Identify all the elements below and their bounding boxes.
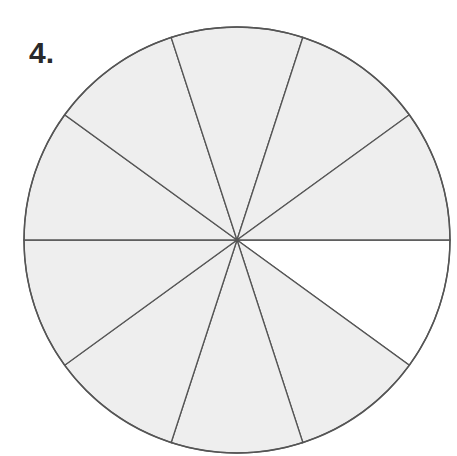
fraction-circle bbox=[0, 0, 457, 456]
